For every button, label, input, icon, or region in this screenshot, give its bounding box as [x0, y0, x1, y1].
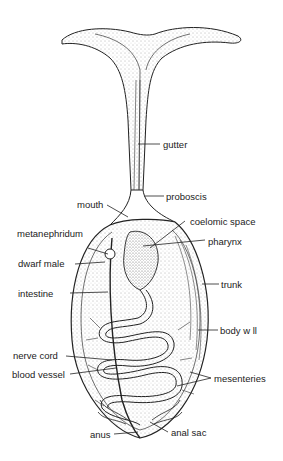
- label-metanephridum: metanephridum: [17, 228, 83, 239]
- label-anal-sac: anal sac: [171, 427, 206, 438]
- label-gutter: gutter: [163, 139, 187, 150]
- label-coelomic-space: coelomic space: [190, 216, 255, 227]
- label-mouth: mouth: [77, 199, 103, 210]
- label-trunk: trunk: [221, 279, 242, 290]
- label-anus: anus: [90, 429, 111, 440]
- label-mesenteries: mesenteries: [214, 373, 266, 384]
- label-dwarf-male: dwarf male: [18, 258, 64, 269]
- label-nerve-cord: nerve cord: [13, 350, 58, 361]
- label-intestine: intestine: [18, 288, 53, 299]
- label-blood-vessel: blood vessel: [12, 369, 65, 380]
- label-pharynx: pharynx: [208, 236, 242, 247]
- label-proboscis: proboscis: [166, 191, 207, 202]
- proboscis-head: [62, 28, 241, 191]
- dwarf-male-shape: [105, 249, 115, 259]
- label-body-wall: body w ll: [220, 325, 257, 336]
